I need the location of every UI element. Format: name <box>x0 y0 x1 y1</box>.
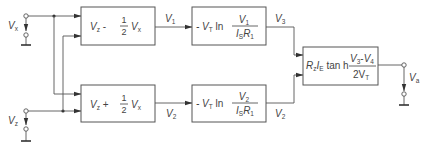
tanh-prefix: RzIE tan h <box>306 60 349 72</box>
v4-label: V2 <box>275 108 286 120</box>
tanh-block: RzIE tan h V3-V4 2VT <box>303 47 378 85</box>
log-block-top: - VT ln V1 ISR1 <box>192 7 266 45</box>
vx-input-terminal: Vx <box>8 14 31 45</box>
subtract-block: Vz - 1 2 Vx <box>81 7 155 45</box>
v3-signal: V3 <box>266 13 303 55</box>
v3-label: V3 <box>275 13 286 25</box>
v1-label: V1 <box>165 13 176 25</box>
vz-label: Vz <box>8 115 18 127</box>
vx-label: Vx <box>8 20 19 32</box>
v4-signal: V2 <box>266 75 303 120</box>
fraction-denominator: 2 <box>121 105 126 115</box>
fraction-numerator: 1 <box>121 93 126 103</box>
v2-signal: V2 <box>155 103 192 120</box>
output-label: Va <box>409 72 420 84</box>
input-wiring <box>28 14 81 112</box>
vz-input-terminal: Vz <box>8 109 31 141</box>
log-block-bottom: - VT ln V2 ISR1 <box>192 85 266 122</box>
output-terminal: Va <box>378 63 420 105</box>
v2-label: V2 <box>166 108 177 120</box>
fraction-numerator: 1 <box>121 15 126 25</box>
fraction-denominator: 2 <box>121 27 126 37</box>
block-diagram: Vx Vz Vz - 1 2 Vx Vz + <box>0 0 428 154</box>
add-block: Vz + 1 2 Vx <box>81 85 155 122</box>
v1-signal: V1 <box>155 13 192 27</box>
add-block-formula: Vz + <box>90 99 109 111</box>
